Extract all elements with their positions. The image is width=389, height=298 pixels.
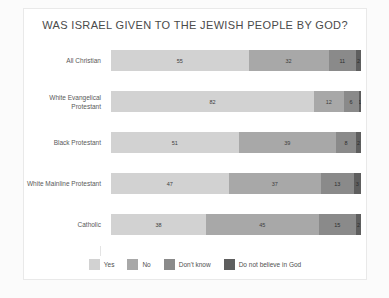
bar-segment: 3 — [354, 173, 362, 194]
legend-item[interactable]: No — [127, 259, 150, 270]
stacked-bar: 821261 — [111, 91, 361, 112]
legend-label: Do not believe in God — [239, 261, 302, 268]
chart-row: White Evangelical Protestant821261 — [23, 81, 367, 122]
stacked-bar: 4737133 — [111, 173, 361, 194]
bar-segment: 82 — [111, 91, 314, 112]
legend-label: No — [142, 261, 150, 268]
bar-segment: 11 — [329, 50, 357, 71]
bar-segment: 6 — [344, 91, 359, 112]
legend-label: Yes — [104, 261, 115, 268]
chart-row: Catholic3845152 — [23, 204, 367, 245]
chart-row: Black Protestant513982 — [23, 122, 367, 163]
stacked-bar: 3845152 — [111, 214, 361, 235]
bar-segment: 37 — [229, 173, 322, 194]
legend-item[interactable]: Do not believe in God — [224, 259, 302, 270]
chart-figure: WAS ISRAEL GIVEN TO THE JEWISH PEOPLE BY… — [0, 0, 389, 298]
bar-segment: 51 — [111, 132, 239, 153]
stacked-bar: 5532112 — [111, 50, 361, 71]
bar-segment: 8 — [336, 132, 356, 153]
page-margin-right — [367, 0, 389, 298]
legend-swatch — [164, 259, 175, 270]
bar-segment: 55 — [111, 50, 249, 71]
page-margin-bottom — [0, 280, 389, 298]
bar-segment: 2 — [356, 132, 361, 153]
bar-segment: 2 — [356, 50, 361, 71]
page-margin-top — [0, 0, 389, 8]
stacked-bar: 513982 — [111, 132, 361, 153]
bar-segment: 32 — [249, 50, 329, 71]
chart-row: All Christian5532112 — [23, 40, 367, 81]
legend-item[interactable]: Yes — [89, 259, 115, 270]
category-label: White Evangelical Protestant — [23, 81, 106, 122]
legend-divider — [100, 246, 101, 256]
bar-segment: 1 — [359, 91, 361, 112]
page-margin-left — [0, 0, 23, 298]
plot-area: All Christian5532112White Evangelical Pr… — [23, 40, 367, 245]
category-label: Catholic — [23, 204, 106, 245]
bar-segment: 13 — [321, 173, 354, 194]
chart-row: White Mainline Protestant4737133 — [23, 163, 367, 204]
legend-label: Don't know — [179, 261, 211, 268]
legend-swatch — [224, 259, 235, 270]
bar-segment: 15 — [319, 214, 357, 235]
bar-segment: 47 — [111, 173, 229, 194]
chart-legend: YesNoDon't knowDo not believe in God — [23, 256, 367, 272]
legend-swatch — [127, 259, 138, 270]
category-label: All Christian — [23, 40, 106, 81]
category-label: Black Protestant — [23, 122, 106, 163]
bar-segment: 39 — [239, 132, 337, 153]
bar-segment: 45 — [206, 214, 319, 235]
legend-swatch — [89, 259, 100, 270]
chart-title: WAS ISRAEL GIVEN TO THE JEWISH PEOPLE BY… — [23, 19, 367, 31]
category-label: White Mainline Protestant — [23, 163, 106, 204]
bar-segment: 2 — [356, 214, 361, 235]
legend-item[interactable]: Don't know — [164, 259, 211, 270]
bar-segment: 38 — [111, 214, 206, 235]
bar-segment: 12 — [314, 91, 344, 112]
